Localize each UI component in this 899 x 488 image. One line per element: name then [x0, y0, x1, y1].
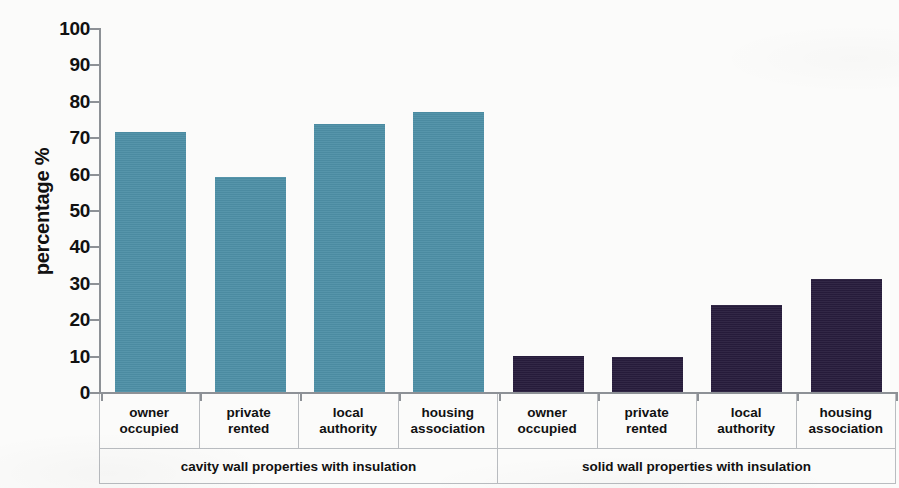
y-axis-tick-labels: 1009080706050403020100	[34, 0, 90, 488]
bar-cavity-private-rented	[215, 177, 286, 392]
group-label-1: solid wall properties with insulation	[498, 449, 895, 484]
category-label-line2: occupied	[120, 421, 179, 437]
y-tickmark-60	[90, 174, 100, 176]
category-label-line1: owner	[527, 405, 567, 421]
category-label-4: owneroccupied	[498, 394, 598, 448]
bar-solid-housing-association	[811, 279, 882, 392]
y-tickmark-40	[90, 246, 100, 248]
category-label-line1: housing	[820, 405, 873, 421]
category-label-line1: owner	[129, 405, 169, 421]
y-tickmark-20	[90, 319, 100, 321]
category-label-row: owneroccupiedprivaterentedlocalauthority…	[100, 394, 895, 448]
category-label-line2: authority	[717, 421, 775, 437]
category-label-line2: rented	[626, 421, 667, 437]
bar-chart: percentage % 1009080706050403020100 owne…	[0, 0, 899, 488]
y-tick-80: 80	[69, 92, 90, 111]
group-label-row: cavity wall properties with insulationso…	[100, 448, 895, 484]
category-label-7: housingassociation	[797, 394, 896, 448]
bar-cavity-housing-association	[413, 112, 484, 392]
bar-cavity-local-authority	[314, 124, 385, 392]
category-label-line2: authority	[319, 421, 377, 437]
group-label-0: cavity wall properties with insulation	[100, 449, 498, 484]
y-tickmark-30	[90, 283, 100, 285]
y-tick-30: 30	[69, 274, 90, 293]
bar-solid-owner-occupied	[513, 356, 584, 392]
category-label-line1: private	[227, 405, 271, 421]
category-label-line2: occupied	[518, 421, 577, 437]
x-tickmark-8	[896, 392, 898, 401]
y-tickmark-10	[90, 356, 100, 358]
y-tickmark-70	[90, 137, 100, 139]
y-tickmark-80	[90, 101, 100, 103]
y-tick-0: 0	[80, 383, 90, 402]
bar-solid-local-authority	[711, 305, 782, 392]
category-label-line2: rented	[228, 421, 269, 437]
category-label-2: localauthority	[299, 394, 399, 448]
category-label-line1: local	[333, 405, 364, 421]
bar-solid-private-rented	[612, 357, 683, 392]
category-label-1: privaterented	[200, 394, 300, 448]
category-label-0: owneroccupied	[100, 394, 200, 448]
category-label-6: localauthority	[697, 394, 797, 448]
category-label-table: owneroccupiedprivaterentedlocalauthority…	[99, 394, 896, 484]
y-tickmark-100	[90, 28, 100, 30]
y-tick-40: 40	[69, 237, 90, 256]
y-tick-20: 20	[69, 310, 90, 329]
y-tickmark-50	[90, 210, 100, 212]
plot-area	[101, 28, 896, 392]
y-tick-60: 60	[69, 165, 90, 184]
y-tick-90: 90	[69, 55, 90, 74]
category-label-5: privaterented	[598, 394, 698, 448]
y-tick-50: 50	[69, 201, 90, 220]
category-label-line1: housing	[422, 405, 475, 421]
y-tick-100: 100	[59, 19, 90, 38]
category-label-line1: private	[625, 405, 669, 421]
bar-cavity-owner-occupied	[115, 132, 186, 392]
category-label-line2: association	[809, 421, 883, 437]
category-label-line2: association	[411, 421, 485, 437]
chart-title-sliver	[0, 0, 899, 7]
category-label-line1: local	[731, 405, 762, 421]
category-label-3: housingassociation	[399, 394, 499, 448]
y-tick-10: 10	[69, 347, 90, 366]
y-tick-70: 70	[69, 128, 90, 147]
y-tickmark-90	[90, 64, 100, 66]
